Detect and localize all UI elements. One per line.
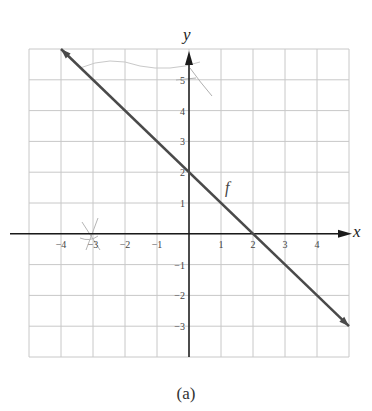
function-label-f: f (225, 179, 232, 197)
x-tick-label: 3 (283, 239, 288, 250)
chart-figure: −4−3−2−1123454321−1−2−3 x y f (0, 0, 372, 411)
x-tick-label: −1 (152, 239, 163, 250)
y-tick-label: 5 (180, 75, 185, 86)
y-axis-label: y (181, 25, 191, 44)
tick-labels: −4−3−2−1123454321−1−2−3 (56, 75, 320, 332)
x-tick-label: 1 (219, 239, 224, 250)
x-tick-label: 4 (315, 239, 320, 250)
y-tick-label: 1 (180, 198, 185, 209)
x-tick-label: −3 (88, 239, 99, 250)
y-tick-label: 3 (180, 136, 185, 147)
x-tick-label: 2 (251, 239, 256, 250)
figure-caption: (a) (0, 384, 372, 404)
y-tick-label: −2 (174, 290, 185, 301)
y-tick-label: −1 (174, 260, 185, 271)
y-tick-label: −3 (174, 321, 185, 332)
y-tick-label: 4 (180, 106, 185, 117)
pencil-marks (80, 61, 212, 250)
x-tick-label: −4 (56, 239, 67, 250)
x-axis-label: x (352, 222, 361, 241)
function-line-f (61, 49, 349, 326)
x-tick-label: −2 (120, 239, 131, 250)
